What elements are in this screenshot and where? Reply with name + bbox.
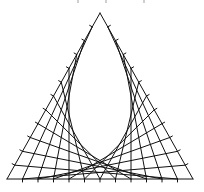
curve-stitching-diagram <box>0 0 204 192</box>
stitch-lines <box>15 27 186 179</box>
tick-marks <box>12 25 188 182</box>
